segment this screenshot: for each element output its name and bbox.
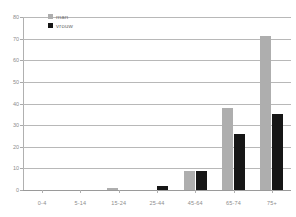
- bar-group-45-64: [176, 17, 214, 190]
- bar-group-0-4: [23, 17, 61, 190]
- x-slot-75+: 75+: [253, 190, 291, 215]
- bar-group-25-44: [138, 17, 176, 190]
- legend-label-man: man: [56, 14, 68, 20]
- x-tick-75+: [272, 190, 273, 193]
- legend-swatch-man-icon: [48, 14, 53, 19]
- x-tick-25-44: [157, 190, 158, 193]
- chart-legend: man vrouw: [48, 12, 73, 30]
- bar-man-65-74: [222, 108, 233, 190]
- bar-group-5-14: [61, 17, 99, 190]
- bar-group-15-24: [100, 17, 138, 190]
- x-tick-5-14: [80, 190, 81, 193]
- legend-item-man: man: [48, 12, 73, 21]
- y-tick-label-60: 60: [2, 57, 19, 63]
- x-tick-45-64: [195, 190, 196, 193]
- y-tick-label-20: 20: [2, 144, 19, 150]
- y-tick-label-70: 70: [2, 36, 19, 42]
- x-tick-15-24: [119, 190, 120, 193]
- x-axis-labels: 0-45-1415-2425-4445-6465-7475+: [23, 190, 291, 215]
- legend-item-vrouw: vrouw: [48, 21, 73, 30]
- bar-vrouw-45-64: [196, 171, 207, 190]
- legend-swatch-vrouw-icon: [48, 23, 53, 28]
- y-tick-label-50: 50: [2, 79, 19, 85]
- bar-group-75+: [253, 17, 291, 190]
- bar-vrouw-65-74: [234, 134, 245, 190]
- bar-group-65-74: [214, 17, 252, 190]
- legend-label-vrouw: vrouw: [56, 23, 73, 29]
- plot-area: 01020304050607080: [23, 17, 291, 190]
- y-tick-label-0: 0: [2, 187, 19, 193]
- y-tick-label-30: 30: [2, 122, 19, 128]
- x-tick-label-75+: 75+: [242, 200, 296, 206]
- bar-man-45-64: [184, 171, 195, 190]
- bar-chart: 01020304050607080 0-45-1415-2425-4445-64…: [0, 0, 296, 217]
- x-tick-0-4: [42, 190, 43, 193]
- bar-man-75+: [260, 36, 271, 190]
- y-tick-label-80: 80: [2, 14, 19, 20]
- bar-vrouw-75+: [272, 114, 283, 190]
- y-tick-label-40: 40: [2, 101, 19, 107]
- y-tick-label-10: 10: [2, 165, 19, 171]
- x-tick-65-74: [234, 190, 235, 193]
